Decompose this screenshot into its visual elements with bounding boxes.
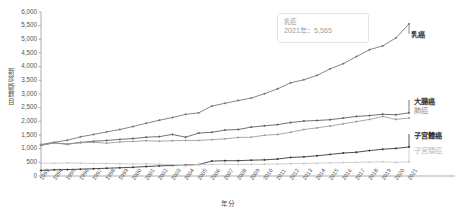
data-point-marker — [145, 163, 147, 165]
data-point-marker — [290, 156, 292, 158]
y-axis-tick-label: 2,000 — [21, 117, 37, 124]
data-point-marker — [106, 142, 108, 144]
data-point-marker — [355, 161, 357, 163]
x-axis-tick-label: 2009 — [249, 167, 261, 181]
y-axis-tick-label: 1,500 — [21, 131, 37, 138]
data-point-marker — [395, 161, 397, 163]
data-point-marker — [66, 162, 68, 164]
data-point-marker — [106, 140, 108, 142]
data-point-marker — [342, 117, 344, 119]
data-point-marker — [303, 120, 305, 122]
x-axis-tick-label: 2007 — [222, 167, 234, 181]
data-point-marker — [355, 115, 357, 117]
data-point-marker — [277, 134, 279, 136]
data-point-marker — [211, 164, 213, 166]
data-point-marker — [106, 131, 108, 133]
data-point-marker — [66, 169, 68, 171]
data-point-marker — [382, 113, 384, 115]
x-axis-tick-label: 2018 — [367, 167, 379, 181]
data-point-marker — [355, 151, 357, 153]
data-point-marker — [382, 148, 384, 150]
x-axis-tick-label: 2001 — [144, 167, 156, 181]
data-point-marker — [316, 120, 318, 122]
data-point-marker — [185, 113, 187, 115]
data-point-marker — [66, 139, 68, 141]
data-point-marker — [119, 167, 121, 169]
data-point-marker — [290, 122, 292, 124]
data-point-marker — [277, 158, 279, 160]
x-axis-tick-label: 1993 — [38, 167, 50, 181]
x-axis-tick-label: 2010 — [262, 167, 274, 181]
data-point-marker — [145, 136, 147, 138]
data-point-marker — [329, 162, 331, 164]
data-point-marker — [382, 161, 384, 163]
data-point-marker — [237, 164, 239, 166]
data-point-marker — [277, 124, 279, 126]
data-point-marker — [237, 100, 239, 102]
x-axis-tick-label: 2003 — [170, 167, 182, 181]
y-axis-tick-label: 5,500 — [21, 21, 37, 28]
x-axis-tick-label: 1998 — [104, 167, 116, 181]
x-axis-tick-label: 2016 — [341, 167, 353, 181]
data-point-marker — [369, 161, 371, 163]
data-point-marker — [250, 159, 252, 161]
data-point-marker — [93, 134, 95, 136]
data-point-marker — [145, 166, 147, 168]
y-axis-tick-label: 2,500 — [21, 103, 37, 110]
data-point-marker — [250, 136, 252, 138]
annotation-value-text: 2021年：5,565 — [284, 26, 362, 35]
data-point-marker — [329, 153, 331, 155]
x-axis-tick-label: 2000 — [130, 167, 142, 181]
data-point-marker — [171, 134, 173, 136]
data-point-marker — [263, 134, 265, 136]
x-axis-tick-label: 2017 — [354, 167, 366, 181]
data-point-marker — [119, 129, 121, 131]
x-axis-tick-label: 2020 — [393, 167, 405, 181]
data-point-marker — [250, 126, 252, 128]
x-axis-tick-label: 2021 — [406, 167, 418, 181]
data-point-marker — [211, 131, 213, 133]
data-point-marker — [382, 115, 384, 117]
x-axis-tick-label: 2006 — [209, 167, 221, 181]
data-point-marker — [119, 138, 121, 140]
x-axis-tick-label: 2008 — [236, 167, 248, 181]
data-point-marker — [211, 139, 213, 141]
data-point-marker — [290, 163, 292, 165]
data-point-marker — [211, 160, 213, 162]
data-point-marker — [158, 163, 160, 165]
y-axis-tick-label: 3,000 — [21, 90, 37, 97]
data-point-marker — [224, 129, 226, 131]
data-point-marker — [224, 138, 226, 140]
data-point-marker — [369, 118, 371, 120]
x-axis-tick-label: 1997 — [91, 167, 103, 181]
data-point-marker — [395, 114, 397, 116]
data-point-marker — [395, 118, 397, 120]
data-point-marker — [316, 155, 318, 157]
data-point-marker — [79, 136, 81, 138]
data-point-marker — [290, 131, 292, 133]
y-axis-tick-label: 4,000 — [21, 62, 37, 69]
data-point-marker — [224, 163, 226, 165]
data-point-marker — [171, 117, 173, 119]
data-point-marker — [342, 152, 344, 154]
data-point-marker — [145, 140, 147, 142]
data-point-marker — [93, 168, 95, 170]
data-point-marker — [237, 137, 239, 139]
y-axis-tick-label: 5,000 — [21, 35, 37, 42]
data-point-marker — [250, 163, 252, 165]
data-point-marker — [369, 150, 371, 152]
data-point-marker — [106, 167, 108, 169]
annotation-callout: 乳癌 2021年：5,565 — [277, 13, 369, 43]
data-point-marker — [224, 102, 226, 104]
data-point-marker — [132, 166, 134, 168]
data-point-marker — [198, 132, 200, 134]
y-axis-tick-label: 6,000 — [21, 8, 37, 15]
data-point-marker — [342, 123, 344, 125]
data-point-marker — [132, 138, 134, 140]
data-point-marker — [408, 117, 410, 119]
x-axis-tick-label: 2004 — [183, 167, 195, 181]
annotation-series-name: 乳癌 — [284, 18, 362, 26]
x-axis-tick-label: 2015 — [328, 167, 340, 181]
x-axis-tick-label: 1999 — [117, 167, 129, 181]
data-point-marker — [224, 160, 226, 162]
